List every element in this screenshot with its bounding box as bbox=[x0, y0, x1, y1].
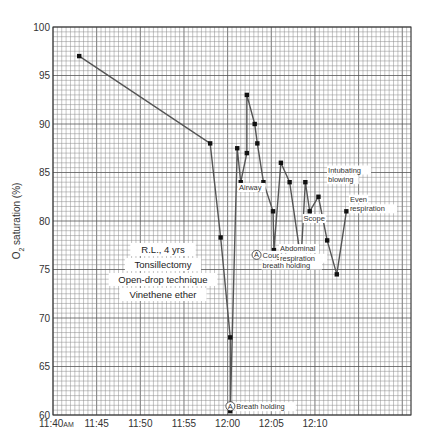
series-o2-saturation bbox=[77, 54, 349, 413]
o2-saturation-chart: 6065707580859095100 11:40AM11:4511:5011:… bbox=[0, 0, 425, 446]
x-axis-ticks: 11:40AM11:4511:5011:5512:0012:0512:10 bbox=[39, 418, 328, 429]
annotation-label: respiration bbox=[280, 254, 315, 263]
annotation-label: Scope bbox=[304, 214, 325, 223]
data-point bbox=[228, 335, 232, 339]
data-point bbox=[255, 141, 259, 145]
annotation-marker-letter: A bbox=[254, 250, 259, 259]
case-info-line: Vinethene ether bbox=[130, 289, 197, 300]
y-tick-label: 85 bbox=[39, 167, 51, 178]
x-tick-suffix: AM bbox=[63, 421, 74, 428]
case-info-line: Tonsillectomy bbox=[134, 259, 191, 270]
annotation-label: Even bbox=[350, 195, 367, 204]
x-tick-label: 11:45 bbox=[85, 418, 110, 429]
y-tick-label: 80 bbox=[39, 216, 51, 227]
data-point bbox=[218, 235, 222, 239]
y-tick-label: 90 bbox=[39, 119, 51, 130]
annotation-label: respiration bbox=[350, 204, 385, 213]
data-point bbox=[271, 209, 275, 213]
data-point bbox=[279, 161, 283, 165]
x-tick-label: 11:55 bbox=[172, 418, 197, 429]
case-info-line: R.L., 4 yrs bbox=[141, 244, 185, 255]
y-tick-label: 65 bbox=[39, 361, 51, 372]
data-point bbox=[245, 151, 249, 155]
data-point bbox=[325, 238, 329, 242]
y-tick-label: 70 bbox=[39, 313, 51, 324]
annotation-marker-letter: A bbox=[228, 402, 233, 411]
data-point bbox=[287, 180, 291, 184]
case-info-box: R.L., 4 yrsTonsillectomyOpen-drop techni… bbox=[109, 243, 218, 301]
data-point bbox=[344, 209, 348, 213]
annotation-label: Breath holding bbox=[236, 402, 284, 411]
x-tick-label: 12:05 bbox=[259, 418, 284, 429]
case-info-line: Open-drop technique bbox=[118, 274, 207, 285]
annotation-label: Intubating bbox=[328, 166, 361, 175]
y-tick-label: 75 bbox=[39, 264, 51, 275]
x-tick-label: 11:50 bbox=[128, 418, 153, 429]
data-point bbox=[303, 180, 307, 184]
x-tick-label: 12:00 bbox=[215, 418, 240, 429]
annotation-label: Abdominal bbox=[280, 244, 316, 253]
x-tick-label: 11:40AM bbox=[39, 418, 74, 429]
data-point bbox=[308, 209, 312, 213]
data-point bbox=[208, 141, 212, 145]
data-point bbox=[253, 122, 257, 126]
y-tick-label: 95 bbox=[39, 70, 51, 81]
data-point bbox=[235, 146, 239, 150]
data-point bbox=[316, 195, 320, 199]
x-tick-label: 12:10 bbox=[302, 418, 327, 429]
data-point bbox=[335, 272, 339, 276]
annotations: AirwayBreath holdingACoughing -Abreath h… bbox=[226, 166, 397, 412]
y-tick-label: 100 bbox=[33, 22, 50, 33]
y-axis-label: O2 saturation (%) bbox=[11, 183, 25, 260]
data-point bbox=[77, 54, 81, 58]
annotation-label: Airway bbox=[239, 183, 262, 192]
annotation-label: blowing bbox=[328, 175, 353, 184]
y-axis-ticks: 6065707580859095100 bbox=[33, 22, 50, 421]
data-point bbox=[245, 93, 249, 97]
